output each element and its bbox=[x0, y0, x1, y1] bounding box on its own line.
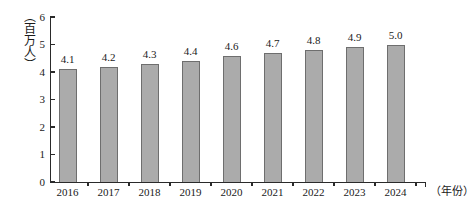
y-axis-tick-label: 1 bbox=[31, 149, 45, 160]
x-axis-tick-label: 2020 bbox=[210, 186, 254, 198]
y-axis-tick-label: 0 bbox=[31, 177, 45, 188]
x-axis-tick-label: 2019 bbox=[169, 186, 213, 198]
x-axis-line bbox=[50, 182, 426, 183]
bar bbox=[182, 61, 200, 182]
bar bbox=[223, 56, 241, 183]
bar bbox=[387, 45, 405, 183]
y-axis-tick bbox=[50, 16, 55, 17]
y-axis-tick-label: 2 bbox=[31, 122, 45, 133]
x-axis-end-tick bbox=[425, 182, 426, 187]
bar-value-label: 5.0 bbox=[381, 30, 411, 41]
bar bbox=[59, 69, 77, 182]
y-axis-tick bbox=[50, 126, 55, 127]
bar-value-label: 4.9 bbox=[340, 32, 370, 43]
bar bbox=[305, 50, 323, 182]
y-axis-tick bbox=[50, 44, 55, 45]
y-axis-tick bbox=[50, 71, 55, 72]
bar-chart: （百万人） 0123456 20162017201820192020202120… bbox=[0, 0, 472, 208]
bar bbox=[346, 47, 364, 182]
x-axis-tick-label: 2016 bbox=[46, 186, 90, 198]
bar-value-label: 4.3 bbox=[135, 49, 165, 60]
y-axis-tick-label: 6 bbox=[31, 12, 45, 23]
x-axis-tick-label: 2023 bbox=[333, 186, 377, 198]
bar-value-label: 4.7 bbox=[258, 38, 288, 49]
bar-value-label: 4.2 bbox=[94, 52, 124, 63]
bar bbox=[264, 53, 282, 182]
x-axis-tick-label: 2022 bbox=[292, 186, 336, 198]
x-axis-tick-label: 2021 bbox=[251, 186, 295, 198]
bar bbox=[141, 64, 159, 182]
x-axis-tick-label: 2017 bbox=[87, 186, 131, 198]
y-axis-tick-label: 5 bbox=[31, 39, 45, 50]
y-axis-tick bbox=[50, 99, 55, 100]
y-axis-tick-label: 3 bbox=[31, 94, 45, 105]
bar bbox=[100, 67, 118, 183]
x-axis-tick-label: 2018 bbox=[128, 186, 172, 198]
y-axis-tick bbox=[50, 154, 55, 155]
x-axis-tick-label: 2024 bbox=[374, 186, 418, 198]
bar-value-label: 4.4 bbox=[176, 46, 206, 57]
x-axis-label: （年份） bbox=[430, 182, 472, 198]
bar-value-label: 4.8 bbox=[299, 35, 329, 46]
bar-value-label: 4.6 bbox=[217, 41, 247, 52]
y-axis-tick-label: 4 bbox=[31, 67, 45, 78]
bar-value-label: 4.1 bbox=[53, 54, 83, 65]
y-axis-tick bbox=[50, 181, 55, 182]
